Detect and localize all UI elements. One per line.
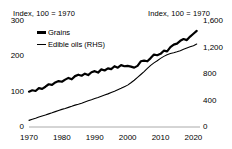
y-axis-right-tick-label: 1,600 xyxy=(203,16,231,25)
legend-label-grains: Grains xyxy=(48,28,70,37)
y-axis-left-tick-label: 200 xyxy=(0,51,24,60)
legend-swatch-edible-oils-icon xyxy=(37,44,46,45)
y-axis-left-tick-label: 0 xyxy=(0,122,24,131)
legend-item-grains: Grains xyxy=(37,28,70,37)
y-axis-right-tick-label: 1,200 xyxy=(203,43,231,52)
legend-label-edible-oils: Edible oils (RHS) xyxy=(48,40,105,49)
y-axis-left-tick-label: 300 xyxy=(0,16,24,25)
y-axis-left-tick-label: 100 xyxy=(0,87,24,96)
y-axis-right-tick-label: 400 xyxy=(203,96,231,105)
x-axis-tick-label: 2020 xyxy=(178,133,208,142)
y-axis-right-tick-label: 800 xyxy=(203,69,231,78)
x-axis-tick-label: 2010 xyxy=(146,133,176,142)
x-axis-tick-label: 1980 xyxy=(47,133,77,142)
x-axis-tick-label: 1990 xyxy=(80,133,110,142)
x-axis-tick-label: 1970 xyxy=(14,133,44,142)
x-axis-tick-label: 2000 xyxy=(113,133,143,142)
legend-swatch-grains-icon xyxy=(37,31,46,33)
plot-area xyxy=(0,0,232,149)
legend-item-edible-oils: Edible oils (RHS) xyxy=(37,40,105,49)
y-axis-right-tick-label: 0 xyxy=(203,122,231,131)
chart-container: Index, 100 = 1970 Index, 100 = 1970 0100… xyxy=(0,0,232,149)
